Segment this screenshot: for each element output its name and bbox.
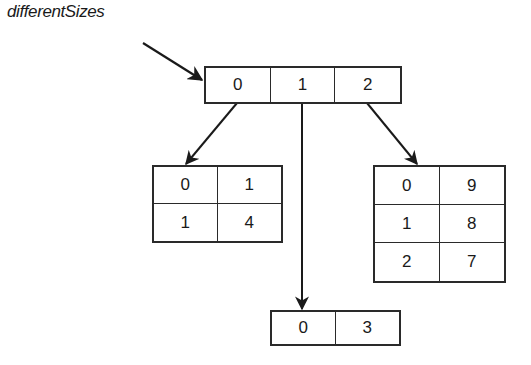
top-array-cell: 0 [206, 68, 271, 102]
label-arrow [143, 43, 202, 80]
left-table-cell: 1 [154, 204, 218, 241]
bottom-array: 0 3 [270, 310, 401, 346]
right-table-cell: 9 [440, 167, 505, 205]
top-array: 0 1 2 [204, 66, 402, 104]
left-table-cell: 0 [154, 167, 218, 204]
left-table-cell: 4 [218, 204, 282, 241]
top-array-cell: 2 [335, 68, 400, 102]
left-table-cell: 1 [218, 167, 282, 204]
right-table-cell: 7 [440, 243, 505, 281]
right-table-cell: 1 [375, 205, 440, 243]
arrow-to-right-table [367, 103, 417, 164]
bottom-array-cell: 3 [336, 312, 400, 344]
right-table-cell: 8 [440, 205, 505, 243]
arrow-to-left-table [186, 103, 237, 164]
bottom-array-cell: 0 [272, 312, 336, 344]
right-table-cell: 0 [375, 167, 440, 205]
right-table-cell: 2 [375, 243, 440, 281]
left-table: 0 1 1 4 [152, 165, 283, 243]
right-table: 0 9 1 8 2 7 [373, 165, 506, 283]
top-array-cell: 1 [271, 68, 336, 102]
